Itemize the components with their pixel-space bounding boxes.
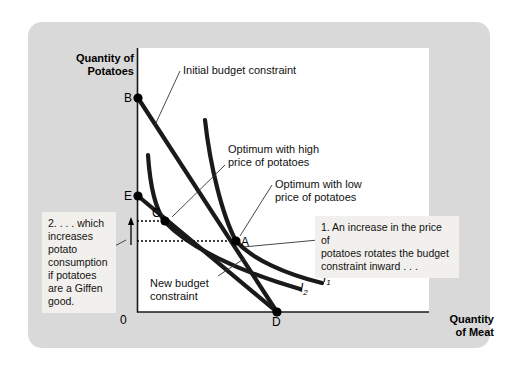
optimum-high-label: Optimum with high price of potatoes [228, 143, 319, 169]
x-axis-title: Quantity of Meat [432, 313, 494, 339]
curve-label-i2: I2 [300, 282, 308, 299]
point-label-E: C [152, 207, 161, 219]
figure-root: Quantity of Potatoes Quantity of Meat 0 … [0, 0, 518, 371]
origin-label: 0 [120, 314, 127, 326]
callout-step1: 1. An increase in the price of potatoes … [315, 216, 459, 278]
point-label-B: B [124, 92, 132, 104]
point-label-C: A [241, 236, 249, 248]
callout-step2: 2. . . . which increases potato consumpt… [42, 212, 116, 313]
curve-label-i2-subscript: 2 [303, 288, 307, 297]
point-label-A: D [272, 316, 281, 328]
y-axis-title: Quantity of Potatoes [62, 52, 134, 78]
curve-label-i1-subscript: 1 [326, 278, 330, 287]
new-budget-constraint-label: New budget constraint [150, 277, 209, 303]
initial-budget-constraint-label: Initial budget constraint [183, 64, 296, 77]
point-label-D: E [124, 190, 132, 202]
optimum-low-label: Optimum with low price of potatoes [275, 178, 362, 204]
